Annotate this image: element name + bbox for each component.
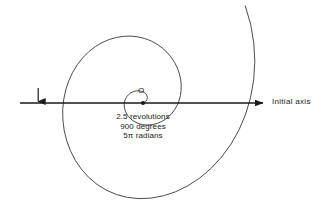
origin-label: O bbox=[138, 86, 144, 95]
origin-point bbox=[141, 101, 145, 105]
initial-axis-label: Initial axis bbox=[272, 97, 311, 106]
